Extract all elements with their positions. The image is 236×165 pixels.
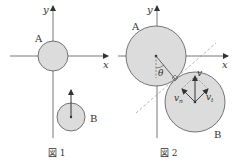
ball-a — [38, 41, 68, 71]
figure-2: y x θ v vn vt A B 図 2 — [118, 4, 228, 158]
figure-1: y x A B 図 1 — [10, 4, 109, 158]
ball-a-label: A — [34, 33, 43, 44]
collision-diagram: y x A B 図 1 y x θ — [0, 0, 236, 165]
x-axis-label: x — [222, 59, 228, 70]
y-axis-label: y — [42, 4, 49, 15]
y-axis-label: y — [146, 4, 153, 15]
figure-1-caption: 図 1 — [48, 148, 66, 158]
angle-theta-label: θ — [158, 68, 164, 78]
x-axis-label: x — [103, 59, 109, 70]
ball-b-label: B — [90, 113, 97, 124]
figure-2-caption: 図 2 — [160, 148, 178, 158]
ball-a-label: A — [131, 21, 140, 32]
velocity-v-label: v — [197, 68, 202, 78]
ball-b-label: B — [214, 129, 221, 140]
